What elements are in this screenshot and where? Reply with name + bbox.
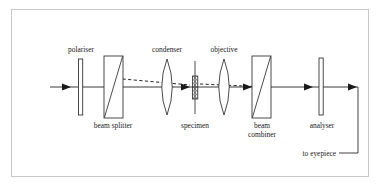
optical-diagram: polariser beam splitter condenser specim… — [0, 0, 381, 190]
polariser-label: polariser — [68, 45, 94, 54]
beam-combiner-label-line2: combiner — [248, 130, 276, 139]
beam-combiner-label-line1: beam — [254, 121, 270, 130]
analyser — [319, 58, 323, 115]
figure-root: polariser beam splitter condenser specim… — [0, 0, 381, 190]
objective-label: objective — [210, 45, 238, 54]
to-eyepiece-label: to eyepiece — [303, 149, 337, 158]
ray-arrow-pre-analyser — [304, 83, 313, 90]
optical-axis-ray — [50, 83, 358, 90]
objective-lens — [219, 59, 230, 115]
ray-arrow-entry — [62, 83, 71, 90]
specimen-label: specimen — [181, 121, 209, 130]
specimen — [192, 61, 197, 114]
eyepiece-path — [339, 87, 358, 153]
beam-splitter-label: beam splitter — [94, 121, 133, 130]
condenser-label: condenser — [152, 45, 182, 54]
dashed-ray-incoming — [117, 79, 190, 86]
condenser-lens — [162, 59, 173, 115]
beam-splitter — [104, 56, 123, 118]
beam-combiner — [252, 56, 271, 118]
ray-arrow-pre-combiner — [243, 83, 252, 90]
polariser — [79, 59, 83, 115]
ray-arrow-exit — [348, 83, 357, 90]
analyser-label: analyser — [310, 121, 335, 130]
